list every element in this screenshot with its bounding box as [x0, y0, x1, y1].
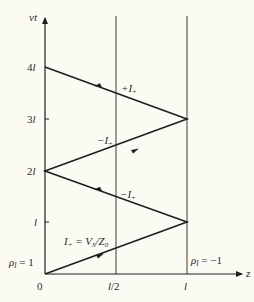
- first-reflected-wave-label: −I+: [120, 188, 136, 202]
- second-reflected-wave-label: −I+: [97, 134, 113, 148]
- vertical-axis-label: vt: [29, 11, 38, 23]
- tick-label-half-l: l/2: [108, 280, 120, 292]
- tick-label-3l: 3l: [27, 113, 36, 125]
- load-reflection-label: ρl = −1: [190, 254, 222, 268]
- tick-label-4l: 4l: [27, 61, 36, 73]
- source-reflection-label: ρl = 1: [8, 256, 34, 270]
- bounce-diagram: vt 4l 3l 2l l 0 l/2 l z ρl = 1 ρl = −1 I…: [0, 0, 254, 302]
- third-reflected-wave-label: +I+: [121, 82, 137, 96]
- tick-label-0: 0: [37, 280, 43, 292]
- incident-wave-label: I+ = VS/Z0: [63, 235, 109, 249]
- tick-label-l: l: [34, 216, 37, 228]
- tick-label-full-l: l: [184, 280, 187, 292]
- horizontal-axis-label: z: [245, 267, 251, 279]
- tick-label-2l: 2l: [27, 165, 36, 177]
- arrow-seg3-icon: [131, 149, 139, 154]
